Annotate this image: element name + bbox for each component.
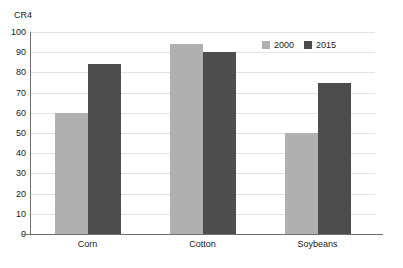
y-tick-label-90: 90 <box>16 47 26 57</box>
y-tick-label-60: 60 <box>16 108 26 118</box>
bar-corn-2015 <box>88 64 121 234</box>
bar-soybeans-2000 <box>285 133 318 234</box>
bar-soybeans-2015 <box>318 83 351 235</box>
y-tick-label-80: 80 <box>16 67 26 77</box>
category-label-soybeans: Soybeans <box>297 238 337 250</box>
bars-layer <box>30 32 375 234</box>
bar-cotton-2000 <box>170 44 203 234</box>
legend-swatch-2000 <box>262 41 270 49</box>
category-label-corn: Corn <box>78 238 98 250</box>
y-tick-label-30: 30 <box>16 168 26 178</box>
x-axis-category-labels: CornCottonSoybeans <box>30 238 375 252</box>
legend-label-2015: 2015 <box>316 40 336 50</box>
y-tick-label-50: 50 <box>16 128 26 138</box>
x-axis-line <box>22 234 383 235</box>
bar-cotton-2015 <box>203 52 236 234</box>
bar-corn-2000 <box>55 113 88 234</box>
legend-entry-2000[interactable]: 2000 <box>262 40 294 50</box>
y-tick-label-100: 100 <box>11 27 26 37</box>
y-axis-tick-labels: 0102030405060708090100 <box>0 32 26 234</box>
y-axis-title: CR4 <box>14 10 32 21</box>
plot-area <box>30 32 375 234</box>
y-tick-label-10: 10 <box>16 209 26 219</box>
legend-label-2000: 2000 <box>274 40 294 50</box>
legend: 20002015 <box>262 40 336 50</box>
y-tick-label-20: 20 <box>16 189 26 199</box>
y-tick-label-40: 40 <box>16 148 26 158</box>
legend-entry-2015[interactable]: 2015 <box>304 40 336 50</box>
category-label-cotton: Cotton <box>189 238 216 250</box>
y-axis-line <box>30 32 31 235</box>
y-tick-label-70: 70 <box>16 88 26 98</box>
bar-chart: CR4 0102030405060708090100 CornCottonSoy… <box>0 0 403 268</box>
legend-swatch-2015 <box>304 41 312 49</box>
